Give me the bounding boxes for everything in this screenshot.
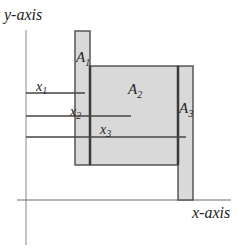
x-axis-label: x-axis — [191, 204, 230, 221]
line-label-x1: x1 — [35, 79, 47, 96]
region-a3 — [178, 66, 193, 200]
y-axis-label: y-axis — [2, 6, 42, 24]
composite-area-diagram: y-axis x-axis A1 A2 A3 x1 x2 x3 — [0, 0, 243, 249]
